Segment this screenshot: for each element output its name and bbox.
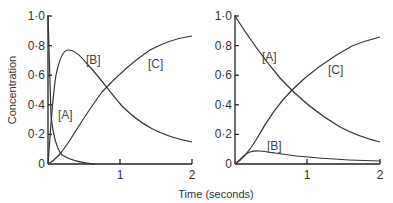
right-xtick-1: 1: [304, 168, 311, 182]
y-axis-title: Concentration: [6, 56, 18, 125]
xtick-1: 1: [117, 168, 124, 182]
right-label-A: [A]: [262, 50, 277, 64]
right-ytick-0: 0: [225, 157, 232, 171]
right-label-B: [B]: [267, 139, 282, 153]
ytick-0: 0: [38, 157, 45, 171]
right-label-C: [C]: [328, 63, 343, 77]
xtick-2: 2: [189, 168, 196, 182]
right-curve-C: [235, 37, 380, 164]
right-ytick-1.0: 1·0: [215, 9, 233, 23]
left-label-B: [B]: [86, 53, 101, 67]
right-curve-A: [235, 16, 380, 142]
chart-figure: Concentration 1·0 0·8 0·6 0·4 0·2 0 1 2 …: [0, 0, 393, 203]
left-curve-C: [48, 36, 192, 164]
right-xtick-2: 2: [377, 168, 384, 182]
right-ytick-0.6: 0·6: [215, 68, 233, 82]
left-curve-B: [48, 50, 192, 164]
left-panel: 1·0 0·8 0·6 0·4 0·2 0 1 2 [A] [B] [C]: [28, 9, 196, 182]
ytick-0.6: 0·6: [28, 68, 46, 82]
left-label-A: [A]: [58, 108, 73, 122]
left-curve-A: [48, 16, 95, 164]
ytick-0.8: 0·8: [28, 39, 46, 53]
x-axis-title: Time (seconds): [178, 188, 253, 200]
left-label-C: [C]: [148, 57, 163, 71]
right-ytick-0.8: 0·8: [215, 39, 233, 53]
right-ytick-0.4: 0·4: [215, 98, 233, 112]
right-ytick-0.2: 0·2: [215, 127, 233, 141]
ytick-0.2: 0·2: [28, 127, 46, 141]
right-panel: 1·0 0·8 0·6 0·4 0·2 0 1 2 [A] [B] [C]: [215, 9, 384, 182]
ytick-0.4: 0·4: [28, 98, 46, 112]
ytick-1.0: 1·0: [28, 9, 46, 23]
